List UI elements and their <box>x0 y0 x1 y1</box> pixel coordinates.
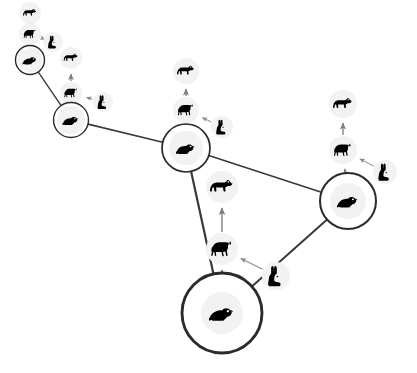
species-node-s2-bear[interactable] <box>60 47 82 69</box>
hub-node-hub-5[interactable] <box>182 273 262 353</box>
node-halo <box>211 116 233 138</box>
species-node-s3-wolf[interactable] <box>173 97 199 123</box>
diagram-canvas <box>0 0 417 373</box>
trophic-arrow-a4-rabbit-wolf <box>360 159 374 166</box>
network-edge-hub-1-hub-2 <box>38 72 61 106</box>
species-node-s2-wolf[interactable] <box>60 82 82 104</box>
species-node-s4-wolf[interactable] <box>329 136 357 164</box>
species-node-s1-rabbit[interactable] <box>43 32 63 52</box>
hub-node-hub-2[interactable] <box>54 103 89 138</box>
trophic-arrow-a2-rabbit-wolf <box>86 97 92 99</box>
species-node-s2-rabbit[interactable] <box>93 92 113 112</box>
species-node-s3-rabbit[interactable] <box>211 116 233 138</box>
hub-node-hub-3[interactable] <box>162 124 210 172</box>
hub-node-hub-4[interactable] <box>320 173 376 229</box>
species-node-s5-bear[interactable] <box>206 171 238 203</box>
network-food-web-svg <box>0 0 417 373</box>
species-node-s1-wolf[interactable] <box>19 23 41 45</box>
hub-node-hub-1[interactable] <box>16 46 45 75</box>
species-node-s5-rabbit[interactable] <box>262 262 290 290</box>
trophic-arrow-a5-rabbit-wolf <box>241 258 263 269</box>
species-node-s4-bear[interactable] <box>329 90 357 118</box>
species-node-s4-rabbit[interactable] <box>373 160 397 184</box>
species-node-s5-wolf[interactable] <box>206 233 238 265</box>
network-edge-hub-2-hub-3 <box>88 124 163 142</box>
species-node-s1-bear[interactable] <box>19 2 41 24</box>
node-halo <box>43 32 63 52</box>
trophic-arrow-a3-rabbit-wolf <box>202 118 211 122</box>
species-node-s3-bear[interactable] <box>173 58 199 84</box>
